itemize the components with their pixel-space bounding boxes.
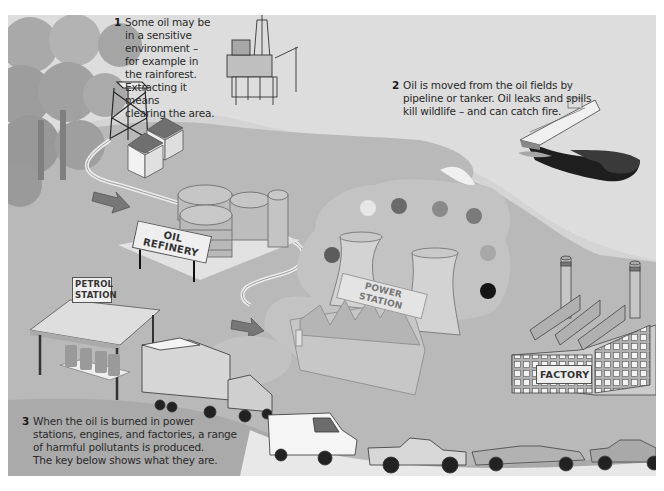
pollutant-dot	[432, 201, 448, 217]
caption-line: of harmful pollutants is produced.	[33, 441, 237, 454]
caption-line: kill wildlife – and can catch fire.	[403, 105, 591, 118]
pollutant-dot	[391, 198, 407, 214]
pollutant-dot	[466, 208, 482, 224]
petrol-station-sign: PETROL STATION	[72, 277, 112, 303]
caption-number: 2	[392, 79, 399, 118]
caption-line: Some oil may be	[125, 16, 224, 29]
pollutant-dot	[480, 283, 496, 299]
caption-line: environment –	[125, 42, 224, 55]
petrol-sign-line1: PETROL	[75, 279, 109, 290]
petrol-sign-line2: STATION	[75, 290, 109, 301]
caption-line: Extracting it means	[125, 81, 224, 107]
pollutant-dot	[324, 247, 340, 263]
caption-line: pipeline or tanker. Oil leaks and spills	[403, 92, 591, 105]
caption-1: 1 Some oil may be in a sensitive environ…	[114, 16, 224, 120]
caption-3: 3 When the oil is burned in power statio…	[22, 415, 252, 467]
pollutant-dot	[480, 245, 496, 261]
caption-line: Oil is moved from the oil fields by	[403, 79, 591, 92]
pollutant-dot	[360, 200, 376, 216]
caption-number: 3	[22, 415, 29, 467]
caption-2: 2 Oil is moved from the oil fields by pi…	[392, 79, 622, 118]
factory-sign: FACTORY	[536, 365, 592, 384]
caption-line: the rainforest.	[125, 68, 224, 81]
caption-line: clearing the area.	[125, 107, 224, 120]
caption-line: for example in	[125, 55, 224, 68]
caption-line: in a sensitive	[125, 29, 224, 42]
caption-line: When the oil is burned in power	[33, 415, 237, 428]
caption-number: 1	[114, 16, 121, 120]
caption-line: The key below shows what they are.	[33, 454, 237, 467]
diagram-frame: OIL REFINERY PETROL STATION POWER STATIO…	[8, 15, 656, 476]
caption-line: stations, engines, and factories, a rang…	[33, 428, 237, 441]
